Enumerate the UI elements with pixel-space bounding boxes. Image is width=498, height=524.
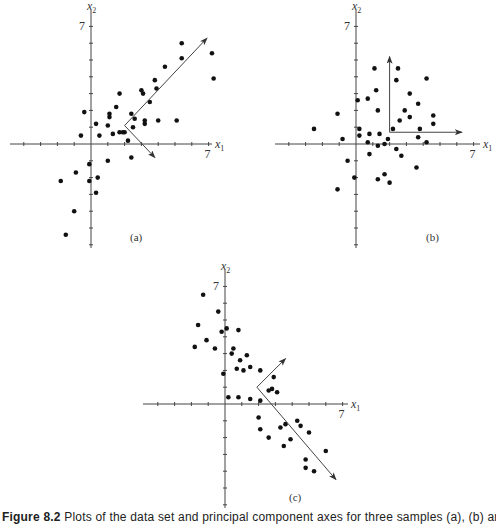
data-point [303, 457, 308, 462]
data-point [114, 105, 119, 110]
y-axis-label: x2 [86, 0, 96, 15]
data-point [236, 328, 241, 333]
data-point [153, 78, 158, 83]
y-tick-label: 7 [79, 19, 85, 33]
data-point [298, 424, 303, 429]
data-point [179, 41, 184, 46]
data-point [266, 388, 271, 393]
data-point [288, 437, 293, 442]
data-point [357, 133, 362, 138]
data-point [226, 395, 231, 400]
axes: 77x1x2 [275, 0, 492, 248]
data-points [312, 66, 436, 192]
data-point [87, 162, 92, 167]
data-point [266, 435, 271, 440]
data-point [219, 329, 224, 334]
data-point [234, 366, 239, 371]
principal-axis-arrow [257, 387, 336, 479]
data-point [87, 179, 92, 184]
data-point [82, 110, 87, 115]
x-axis-label: x1 [214, 137, 224, 153]
principal-axis-arrow [257, 359, 286, 388]
data-point [174, 118, 179, 123]
data-point [382, 142, 387, 147]
panel-label: (b) [426, 231, 439, 244]
data-point [431, 122, 436, 127]
data-point [142, 122, 147, 127]
data-point [97, 133, 102, 138]
data-point [414, 165, 419, 170]
scatter-panel-a: 77x1x2(a) [10, 0, 224, 248]
data-point [387, 180, 392, 185]
data-point [64, 232, 69, 237]
x-axis-label: x1 [482, 137, 492, 153]
data-point [278, 425, 283, 430]
axes: 77x1x2 [10, 0, 224, 248]
data-point [156, 118, 161, 123]
data-point [122, 130, 127, 135]
data-point [352, 175, 357, 180]
data-point [106, 159, 111, 164]
data-point [365, 96, 370, 101]
data-point [367, 132, 372, 137]
data-point [58, 179, 63, 184]
data-point [396, 66, 401, 71]
data-point [72, 209, 77, 214]
data-point [386, 137, 391, 142]
data-point [418, 127, 423, 132]
data-point [248, 397, 253, 402]
data-point [416, 135, 421, 140]
y-tick-label: 7 [213, 279, 219, 293]
data-point [229, 351, 234, 356]
caption-label: Figure 8.2 [2, 510, 61, 524]
data-point [394, 78, 399, 83]
principal-axes [125, 38, 207, 157]
data-point [335, 111, 340, 116]
data-point [376, 177, 381, 182]
data-point [340, 137, 345, 142]
data-point [407, 91, 412, 96]
data-point [382, 172, 387, 177]
data-point [111, 132, 116, 137]
data-point [245, 353, 250, 358]
x-tick-label: 7 [339, 407, 345, 421]
panel-label: (a) [130, 231, 143, 244]
data-point [231, 346, 236, 351]
data-point [95, 175, 100, 180]
data-point [256, 415, 261, 420]
y-axis-label: x2 [351, 0, 361, 15]
data-point [335, 187, 340, 192]
data-point [241, 368, 246, 373]
data-point [376, 143, 381, 148]
data-point [94, 190, 99, 195]
data-point [201, 293, 206, 298]
data-point [141, 91, 146, 96]
data-point [295, 419, 300, 424]
data-point [221, 371, 226, 376]
data-point [376, 108, 381, 113]
data-point [126, 138, 131, 143]
data-point [355, 98, 360, 103]
data-point [107, 115, 112, 120]
panel-label: (c) [289, 491, 302, 504]
data-point [424, 140, 429, 145]
y-axis-label: x2 [220, 259, 230, 275]
data-point [163, 64, 168, 69]
data-point [397, 118, 402, 123]
data-point [416, 101, 421, 106]
x-axis-label: x1 [350, 397, 360, 413]
data-point [271, 375, 276, 380]
data-point [79, 133, 84, 138]
data-point [131, 125, 136, 130]
data-point [204, 338, 209, 343]
data-point [431, 113, 436, 118]
data-point [210, 51, 215, 56]
data-point [275, 390, 280, 395]
data-point [372, 66, 377, 71]
data-point [345, 159, 350, 164]
data-point [357, 127, 362, 132]
scatter-panel-c: 77x1x2(c) [143, 259, 360, 508]
data-point [324, 449, 329, 454]
data-point [196, 323, 201, 328]
